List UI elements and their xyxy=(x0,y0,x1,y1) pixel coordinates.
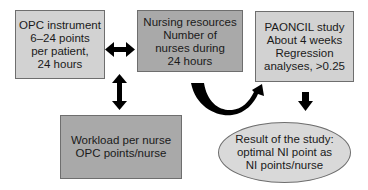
double-arrow-vertical xyxy=(112,74,127,110)
double-arrow-horizontal xyxy=(105,42,135,57)
curved-arrow xyxy=(191,83,264,115)
arrows-layer xyxy=(0,0,368,190)
down-arrow xyxy=(298,92,313,111)
